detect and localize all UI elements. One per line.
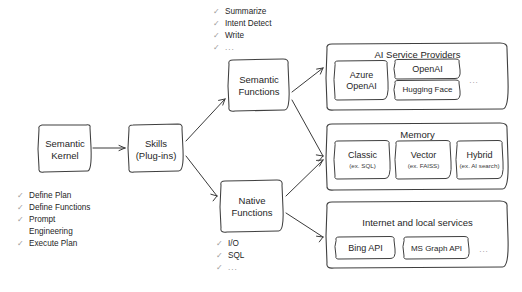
check-icon: ✓ <box>213 42 220 54</box>
ai-service-providers-ellipsis: ... <box>464 76 484 86</box>
bing-api-chip-shape <box>335 237 395 260</box>
connector-semantic-functions-to-ai-providers <box>292 68 323 92</box>
semantic-function-examples-list: ✓Summarize✓Intent Detect✓Write✓... <box>213 6 271 54</box>
arrowhead-semantic-functions-to-ai-providers <box>317 68 323 74</box>
check-icon: ✓ <box>213 18 220 30</box>
checklist-item: ✓Execute Plan <box>17 238 90 250</box>
checklist-item: ✓Engineering <box>17 226 90 238</box>
connector-skills-to-semantic-functions <box>186 99 225 141</box>
memory-title: Memory <box>327 129 508 141</box>
check-icon: ✓ <box>216 262 223 274</box>
check-icon: ✓ <box>213 6 220 18</box>
check-icon: ✓ <box>17 202 24 214</box>
arrowhead-native-functions-to-internet-services <box>317 236 324 242</box>
vector-chip-label: Vector <box>396 150 451 161</box>
checklist-item: ✓Define Plan <box>17 190 90 202</box>
vector-chip-shape <box>395 141 451 180</box>
checklist-item-label: Define Plan <box>29 190 71 202</box>
connector-skills-to-native-functions <box>186 156 217 196</box>
checklist-item-label: I/O <box>228 238 239 250</box>
hybrid-chip-sublabel: (ex. AI search) <box>454 162 505 170</box>
check-icon: ✓ <box>17 226 24 238</box>
checklist-item-label: Engineering <box>29 226 73 238</box>
azure-openai-chip-label: Azure OpenAI <box>335 70 388 92</box>
check-icon: ✓ <box>213 30 220 42</box>
azure-openai-chip-shape <box>334 61 388 101</box>
check-icon: ✓ <box>17 214 24 226</box>
semantic-kernel-box-shape <box>38 125 91 172</box>
internet-services-panel-shape <box>326 201 508 268</box>
checklist-item: ✓Write <box>213 30 271 42</box>
hybrid-chip-shape <box>456 141 503 180</box>
checklist-item: ✓I/O <box>216 238 244 250</box>
checklist-item: ✓... <box>216 262 244 274</box>
connector-semantic-functions-to-memory <box>292 100 323 156</box>
checklist-item-label: Execute Plan <box>29 238 77 250</box>
internet-services-ellipsis: ... <box>474 245 494 255</box>
semantic-kernel-label: Semantic Kernel <box>39 138 91 161</box>
checklist-item: ✓... <box>213 42 271 54</box>
arrowhead-skills-to-semantic-functions <box>219 99 225 105</box>
arrowhead-skills-to-native-functions <box>211 194 217 201</box>
check-icon: ✓ <box>17 238 24 250</box>
hugging-face-chip-label: Hugging Face <box>395 85 460 95</box>
arrowhead-kernel-to-skills <box>119 145 125 150</box>
connector-native-functions-to-internet-services <box>286 213 323 237</box>
native-functions-box-shape <box>220 180 283 232</box>
checklist-item-label: Define Functions <box>29 202 90 214</box>
checklist-item-label: Intent Detect <box>225 18 271 30</box>
vector-chip-sublabel: (ex. FAISS) <box>396 162 451 170</box>
native-functions-label: Native Functions <box>221 195 283 218</box>
check-icon: ✓ <box>216 238 223 250</box>
checklist-item-label: Summarize <box>225 6 266 18</box>
checklist-item-label: ... <box>228 262 238 274</box>
ai-service-providers-panel-shape <box>326 43 508 110</box>
checklist-item-label: Write <box>225 30 244 42</box>
checklist-item: ✓Prompt <box>17 214 90 226</box>
kernel-capabilities-list: ✓Define Plan✓Define Functions✓Prompt✓Eng… <box>17 190 90 249</box>
checklist-item: ✓Define Functions <box>17 202 90 214</box>
classic-chip-shape <box>334 141 390 180</box>
ms-graph-api-chip-label: MS Graph API <box>404 244 469 254</box>
internet-services-title: Internet and local services <box>327 217 508 229</box>
ms-graph-api-chip-shape <box>403 237 469 260</box>
diagram-canvas: Semantic Kernel Skills (Plug-ins) Semant… <box>0 0 522 292</box>
checklist-item: ✓Summarize <box>213 6 271 18</box>
checklist-item-label: Prompt <box>29 214 55 226</box>
check-icon: ✓ <box>17 190 24 202</box>
arrowhead-semantic-functions-to-memory <box>316 155 323 161</box>
native-function-examples-list: ✓I/O✓SQL✓... <box>216 238 244 274</box>
checklist-item-label: SQL <box>228 250 244 262</box>
bing-api-chip-label: Bing API <box>336 243 395 254</box>
memory-panel-shape <box>326 123 508 190</box>
hybrid-chip-label: Hybrid <box>456 150 503 161</box>
connector-native-functions-to-memory <box>286 160 323 196</box>
semantic-functions-box-shape <box>228 59 289 111</box>
openai-chip-shape <box>394 59 460 79</box>
skills-label: Skills (Plug-ins) <box>129 138 183 161</box>
checklist-item-label: ... <box>225 42 235 54</box>
checklist-item: ✓SQL <box>216 250 244 262</box>
semantic-functions-label: Semantic Functions <box>229 74 289 97</box>
openai-chip-label: OpenAI <box>395 64 460 75</box>
classic-chip-label: Classic <box>335 150 390 161</box>
skills-box-shape <box>128 124 183 172</box>
ai-service-providers-title: AI Service Providers <box>327 49 508 61</box>
checklist-item: ✓Intent Detect <box>213 18 271 30</box>
check-icon: ✓ <box>216 250 223 262</box>
arrowhead-native-functions-to-memory <box>317 160 324 166</box>
classic-chip-sublabel: (ex. SQL) <box>335 162 390 170</box>
hugging-face-chip-shape <box>394 80 460 100</box>
